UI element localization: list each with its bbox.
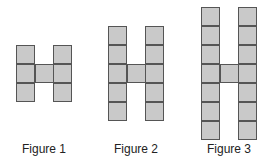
left-column-tile (108, 45, 127, 64)
crossbar-tile (127, 64, 146, 83)
left-column-tile (201, 83, 220, 102)
right-column-tile (145, 26, 164, 45)
left-column-tile (201, 121, 220, 140)
left-column-tile (201, 26, 220, 45)
right-column-tile (238, 121, 257, 140)
left-column-tile (201, 7, 220, 26)
left-column-tile (16, 45, 35, 64)
figure-1-label: Figure 1 (14, 142, 74, 156)
right-column-tile (145, 64, 164, 83)
right-column-tile (145, 102, 164, 121)
crossbar-tile (35, 64, 54, 83)
right-column-tile (238, 102, 257, 121)
right-column-tile (53, 45, 72, 64)
left-column-tile (201, 45, 220, 64)
right-column-tile (145, 45, 164, 64)
right-column-tile (238, 7, 257, 26)
right-column-tile (145, 83, 164, 102)
left-column-tile (108, 102, 127, 121)
right-column-tile (238, 26, 257, 45)
left-column-tile (16, 83, 35, 102)
left-column-tile (108, 26, 127, 45)
crossbar-tile (220, 64, 239, 83)
left-column-tile (108, 83, 127, 102)
right-column-tile (238, 64, 257, 83)
left-column-tile (16, 64, 35, 83)
figure-2-label: Figure 2 (106, 142, 166, 156)
right-column-tile (53, 64, 72, 83)
right-column-tile (238, 45, 257, 64)
right-column-tile (238, 83, 257, 102)
left-column-tile (108, 64, 127, 83)
left-column-tile (201, 102, 220, 121)
left-column-tile (201, 64, 220, 83)
right-column-tile (53, 83, 72, 102)
figure-3-label: Figure 3 (199, 142, 259, 156)
